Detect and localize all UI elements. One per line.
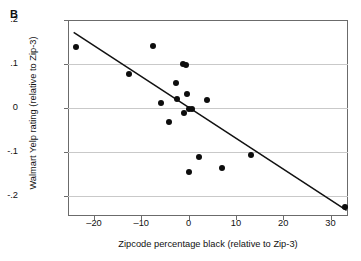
- x-tick-label: 10: [219, 219, 253, 228]
- y-tick-label: .1: [0, 59, 18, 68]
- y-axis-title: Walmart Yelp rating (relative to Zip-3): [28, 18, 38, 208]
- x-tick-label: 20: [266, 219, 300, 228]
- y-tick-label: 0: [0, 103, 18, 112]
- scatter-point: [342, 204, 348, 210]
- x-tick-label: –10: [124, 219, 158, 228]
- x-tick-label: –20: [77, 219, 111, 228]
- scatter-point: [219, 165, 225, 171]
- x-tick-label: 30: [314, 219, 348, 228]
- y-tick-label: -.1: [0, 147, 18, 156]
- figure-panel-b: B Walmart Yelp rating (relative to Zip-3…: [0, 0, 361, 261]
- x-axis-title: Zipcode percentage black (relative to Zi…: [68, 239, 348, 249]
- y-tick-label: -.2: [0, 191, 18, 200]
- scatter-point: [158, 100, 164, 106]
- scatter-point: [248, 152, 254, 158]
- x-tick-label: 0: [172, 219, 206, 228]
- scatter-point: [73, 44, 79, 50]
- regression-line: [68, 20, 348, 216]
- plot-area: [68, 20, 348, 216]
- y-tick-label: .2: [0, 15, 18, 24]
- scatter-point: [150, 43, 156, 49]
- scatter-point: [186, 169, 192, 175]
- scatter-point: [184, 91, 190, 97]
